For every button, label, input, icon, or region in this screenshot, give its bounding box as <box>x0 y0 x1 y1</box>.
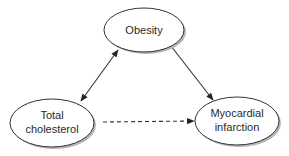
node-obesity-label: Obesity <box>125 24 163 36</box>
node-total-cholesterol-label-line2: cholesterol <box>25 123 78 135</box>
node-total-cholesterol-label-line1: Total <box>40 109 63 121</box>
causal-diagram: Obesity Total cholesterol Myocardial inf… <box>0 0 289 156</box>
node-myocardial-infarction-label-line1: Myocardial <box>210 107 263 119</box>
node-total-cholesterol: Total cholesterol <box>10 99 96 149</box>
edge-cholesterol-mi-dashed <box>103 121 194 122</box>
edge-obesity-mi <box>171 46 213 100</box>
edge-cholesterol-obesity <box>81 50 118 101</box>
node-obesity: Obesity <box>104 8 186 54</box>
node-myocardial-infarction-label-line2: infarction <box>215 121 260 133</box>
node-myocardial-infarction: Myocardial infarction <box>195 97 281 147</box>
